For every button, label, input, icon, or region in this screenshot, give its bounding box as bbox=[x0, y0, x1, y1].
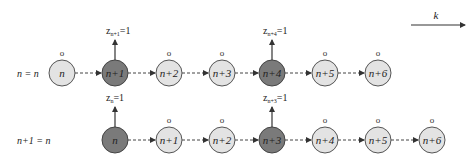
state-node: n+6o bbox=[365, 48, 391, 86]
node-label: n+1 bbox=[106, 67, 124, 79]
state-node: n+6o bbox=[419, 115, 445, 153]
output-zero-marker: o bbox=[220, 115, 225, 125]
state-node: n+2o bbox=[156, 48, 182, 86]
node-label: n+4 bbox=[263, 67, 282, 79]
node-label: n+3 bbox=[213, 67, 232, 79]
row-label-1: n = n bbox=[17, 68, 39, 79]
output-zero-marker: o bbox=[60, 48, 65, 58]
rows-layer: non+1zn+1=1n+2on+3on+4zn+4=1n+5on+6onzn=… bbox=[49, 25, 445, 153]
row-label-2: n+1 = n bbox=[17, 135, 51, 146]
state-node: n+1zn+1=1 bbox=[102, 25, 130, 86]
output-zero-marker: o bbox=[376, 115, 381, 125]
output-zero-marker: o bbox=[167, 115, 172, 125]
node-label: n+5 bbox=[369, 134, 388, 146]
state-node: n+5o bbox=[365, 115, 391, 153]
emission-label: zn=1 bbox=[106, 92, 124, 104]
state-node: n+2o bbox=[209, 115, 235, 153]
direction-indicator: k bbox=[411, 9, 465, 25]
node-label: n+2 bbox=[213, 134, 232, 146]
node-label: n+3 bbox=[263, 134, 282, 146]
output-zero-marker: o bbox=[220, 48, 225, 58]
node-label: n+6 bbox=[423, 134, 442, 146]
state-node: n+3zn+3=1 bbox=[259, 92, 287, 153]
chain-row-2: nzn=1n+1on+2on+3zn+3=1n+4on+5on+6o bbox=[102, 92, 445, 153]
state-node: nzn=1 bbox=[102, 92, 128, 153]
direction-label: k bbox=[434, 9, 440, 21]
chain-row-1: non+1zn+1=1n+2on+3on+4zn+4=1n+5on+6o bbox=[49, 25, 391, 86]
output-zero-marker: o bbox=[167, 48, 172, 58]
output-zero-marker: o bbox=[323, 115, 328, 125]
node-label: n+6 bbox=[369, 67, 388, 79]
output-zero-marker: o bbox=[323, 48, 328, 58]
state-node: no bbox=[49, 48, 75, 86]
emission-label: zn+4=1 bbox=[263, 25, 287, 37]
node-label: n+5 bbox=[316, 67, 335, 79]
node-label: n bbox=[59, 67, 65, 79]
node-label: n+1 bbox=[160, 134, 178, 146]
state-node: n+4zn+4=1 bbox=[259, 25, 287, 86]
emission-label: zn+3=1 bbox=[263, 92, 287, 104]
state-node: n+4o bbox=[312, 115, 338, 153]
state-node: n+5o bbox=[312, 48, 338, 86]
state-node: n+3o bbox=[209, 48, 235, 86]
output-zero-marker: o bbox=[430, 115, 435, 125]
node-label: n+2 bbox=[160, 67, 179, 79]
state-transition-diagram: k n = n n+1 = n non+1zn+1=1n+2on+3on+4zn… bbox=[0, 0, 472, 157]
node-label: n bbox=[112, 134, 118, 146]
state-node: n+1o bbox=[156, 115, 182, 153]
node-label: n+4 bbox=[316, 134, 335, 146]
output-zero-marker: o bbox=[376, 48, 381, 58]
emission-label: zn+1=1 bbox=[106, 25, 130, 37]
